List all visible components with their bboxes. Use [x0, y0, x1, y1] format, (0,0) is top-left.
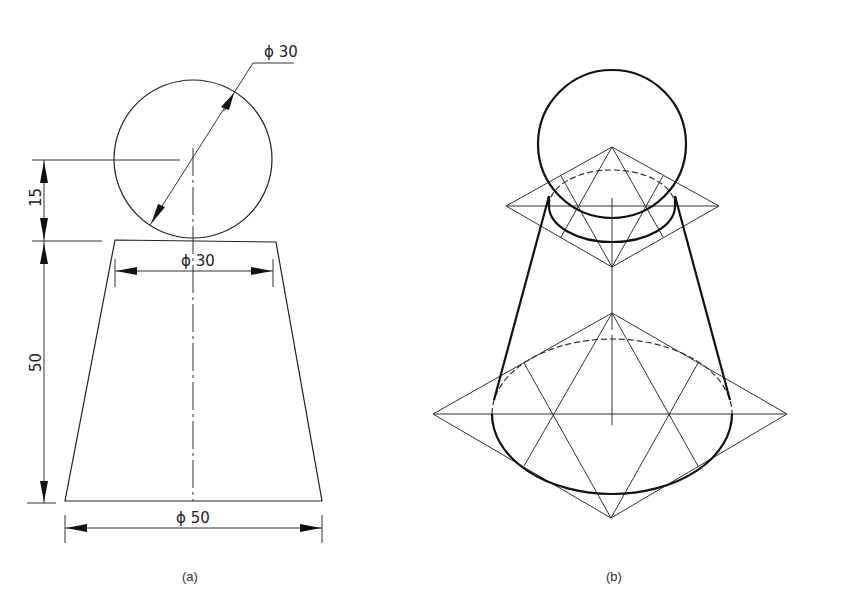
arrowhead: [40, 243, 48, 264]
bottom-rhombus: [433, 313, 787, 518]
frustum-height-label: 50: [27, 353, 45, 372]
bottom-diameter-label: ϕ 50: [176, 509, 210, 527]
figure-a-caption: (a): [182, 569, 198, 584]
construction-line: [561, 176, 612, 267]
sphere-offset-label: 15: [27, 188, 45, 207]
arrowhead: [40, 218, 48, 240]
construction-line: [611, 363, 698, 518]
frustum-right-edge: [675, 196, 730, 400]
construction-line: [561, 147, 612, 237]
arrowhead: [40, 161, 48, 183]
figure-a-orthographic: ϕ 30 15 50 ϕ 30 ϕ 50 (a): [27, 43, 322, 584]
arrowhead: [251, 267, 272, 275]
sphere-diameter-label: ϕ 30: [264, 43, 298, 61]
arrowhead: [40, 481, 48, 502]
construction-line: [524, 363, 611, 518]
construction-line: [612, 313, 698, 466]
arrowhead: [151, 204, 165, 224]
construction-line: [524, 313, 612, 466]
figure-b-caption: (b): [606, 569, 622, 584]
figure-b-isometric: (b): [433, 70, 787, 584]
bottom-ellipse-visible: [492, 414, 732, 494]
sphere-diameter-leader: [150, 63, 253, 225]
top-diameter-label: ϕ 30: [181, 252, 215, 270]
sphere-outline: [538, 70, 686, 218]
arrowhead: [300, 524, 321, 532]
frustum-left-edge: [494, 196, 549, 400]
arrowhead: [66, 524, 87, 532]
arrowhead: [221, 93, 234, 110]
construction-line: [612, 176, 663, 267]
arrowhead: [116, 267, 137, 275]
drawing-canvas: ϕ 30 15 50 ϕ 30 ϕ 50 (a): [0, 0, 851, 610]
